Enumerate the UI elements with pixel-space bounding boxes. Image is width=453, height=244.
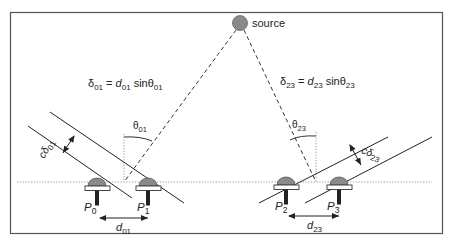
sensor-p0-label: P0 (84, 201, 97, 216)
spacing-right-label: d23 (307, 219, 323, 234)
ray-right-dashed (244, 30, 316, 182)
theta-right-label: θ23 (292, 119, 306, 133)
diagram-frame (11, 13, 443, 234)
equation-right: δ23 = d23 sinθ23 (280, 75, 355, 90)
path-diff-left-label: cδ01 (35, 136, 58, 161)
angle-arc-right (290, 136, 316, 140)
path-diff-arrow-right (350, 145, 361, 165)
angle-arc-left (124, 137, 152, 141)
wavefront-left-lower (28, 126, 132, 198)
source-label: source (252, 17, 285, 29)
equation-left: δ01 = d01 sinθ01 (88, 77, 163, 92)
path-diff-right-label: cδ23 (359, 143, 384, 165)
source-icon (233, 16, 248, 31)
theta-left-label: θ01 (133, 120, 147, 134)
path-diff-arrow-left (63, 136, 74, 153)
wavefront-left-upper (50, 112, 184, 203)
ray-left-dashed (124, 30, 236, 182)
sensor-diagram: source δ01 = d01 sinθ01 δ23 = d23 sinθ23… (0, 0, 453, 244)
